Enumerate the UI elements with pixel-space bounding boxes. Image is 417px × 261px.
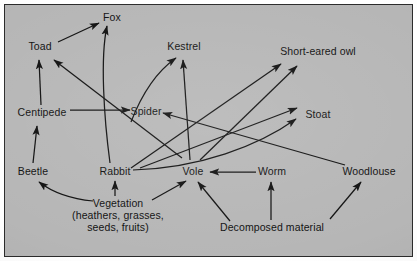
link-vole-stoat <box>140 108 297 168</box>
link-centipede-toad <box>39 60 41 105</box>
node-short-eared-owl: Short-eared owl <box>280 46 356 58</box>
node-fox: Fox <box>103 12 121 24</box>
node-beetle: Beetle <box>18 166 48 178</box>
node-vegetation-line2: (heathers, grasses, <box>48 210 188 222</box>
link-vole-toad <box>54 60 182 158</box>
link-decomposed-woodlouse <box>330 182 361 219</box>
link-decomposed-vole <box>198 182 230 221</box>
node-vegetation: Vegetation (heathers, grasses, seeds, fr… <box>48 198 188 233</box>
link-vole-kestrel <box>183 60 190 160</box>
node-vegetation-line3: seeds, fruits) <box>48 222 188 234</box>
node-woodlouse: Woodlouse <box>342 166 395 178</box>
node-vole: Vole <box>183 166 204 178</box>
node-rabbit: Rabbit <box>100 166 131 178</box>
food-web-diagram: Fox Toad Kestrel Short-eared owl Centipe… <box>0 0 417 261</box>
node-stoat: Stoat <box>305 109 330 121</box>
link-rabbit-fox <box>103 26 110 163</box>
link-beetle-centipede <box>33 126 37 163</box>
node-spider: Spider <box>131 106 162 118</box>
node-kestrel: Kestrel <box>167 41 200 53</box>
node-worm: Worm <box>258 166 286 178</box>
link-toad-fox <box>58 23 99 42</box>
node-decomposed-material: Decomposed material <box>220 222 324 234</box>
node-toad: Toad <box>28 41 51 53</box>
node-centipede: Centipede <box>18 107 67 119</box>
node-vegetation-line1: Vegetation <box>93 197 144 209</box>
